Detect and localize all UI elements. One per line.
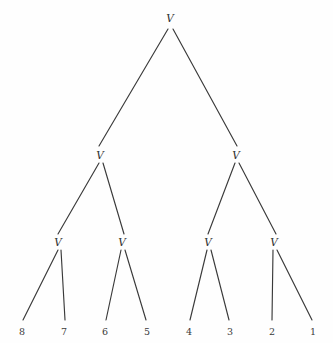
tree-node-label-n-r: V (232, 150, 240, 161)
tree-leaf-label-7: 7 (61, 327, 67, 337)
tree-edge (190, 250, 207, 320)
tree-edge (23, 250, 58, 320)
tree-node-label-n-l: V (96, 150, 104, 161)
tree-leaf-label-8: 8 (19, 327, 25, 337)
tree-leaf-label-6: 6 (102, 327, 108, 337)
tree-edge (211, 250, 229, 320)
tree-leaf-label-2: 2 (269, 327, 275, 337)
tree-diagram-figure: VVVVVVV 87654321 (0, 0, 333, 343)
tree-edge (173, 29, 237, 146)
tree-edge (239, 163, 276, 234)
tree-edges-canvas (0, 0, 333, 343)
tree-node-label-n-lr: V (118, 237, 126, 248)
tree-node-label-root: V (166, 13, 174, 24)
tree-leaf-label-3: 3 (227, 327, 233, 337)
tree-edge (125, 250, 146, 320)
tree-edge (208, 163, 235, 234)
tree-edge (58, 163, 99, 234)
tree-edge (106, 250, 121, 320)
tree-edge (103, 163, 124, 234)
tree-edge (277, 250, 312, 320)
tree-leaf-label-4: 4 (186, 327, 192, 337)
tree-leaf-label-5: 5 (144, 327, 150, 337)
tree-node-label-n-rl: V (204, 237, 212, 248)
tree-edge (61, 250, 65, 320)
tree-node-label-n-rr: V (270, 237, 278, 248)
edge-group (23, 29, 312, 320)
tree-edge (99, 29, 168, 146)
tree-node-label-n-ll: V (54, 237, 62, 248)
tree-leaf-label-1: 1 (310, 327, 316, 337)
tree-edge (272, 250, 273, 320)
